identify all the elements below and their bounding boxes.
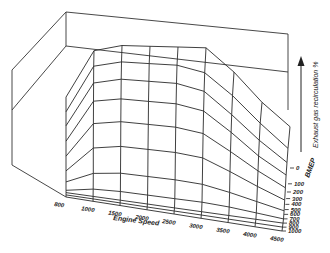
y-axis-ticks: 01002003004005006007008009001000 — [282, 165, 305, 234]
x-tick-label: 3000 — [189, 222, 204, 230]
x-tick-label: 800 — [54, 201, 65, 209]
mesh-line-speed — [147, 46, 150, 210]
box-edge-top-left — [12, 12, 66, 70]
chart-box-frame — [12, 12, 288, 197]
mesh-line-speed — [93, 51, 94, 202]
z-axis-arrow-icon — [298, 56, 305, 152]
y-axis-label: BMEP — [303, 157, 317, 179]
x-tick-label: 1000 — [81, 205, 96, 213]
x-tick-label: 4500 — [269, 235, 285, 243]
y-tick-label: 200 — [292, 189, 304, 195]
box-edge-floor-left — [12, 165, 66, 197]
box-edge-top-back — [66, 12, 288, 34]
z-axis-label: Exhaust gas recirculation % — [312, 62, 320, 148]
box-edge-mid-left — [12, 46, 66, 110]
egr-surface-chart: 80010001500200025003000350040004500 0100… — [0, 0, 330, 253]
mesh-line-speed — [120, 46, 122, 206]
x-tick-label: 2500 — [161, 218, 177, 226]
y-tick-label: 1000 — [288, 228, 302, 234]
mesh-line-load — [66, 46, 290, 127]
surface-mesh — [66, 46, 290, 232]
x-tick-label: 4000 — [242, 231, 258, 239]
x-tick-label: 3500 — [216, 227, 231, 235]
y-tick-label: 0 — [296, 165, 300, 171]
x-axis-label: Engine Speed — [113, 214, 161, 228]
mesh-line-speed — [174, 47, 178, 214]
y-tick-label: 100 — [294, 181, 305, 187]
